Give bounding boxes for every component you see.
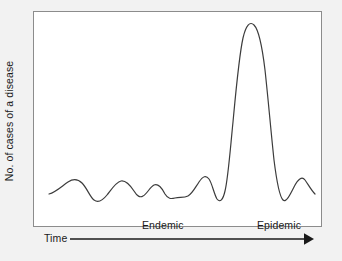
x-axis-label: Time [44,232,67,245]
figure-container: Endemic Epidemic No. of cases of a disea… [0,0,342,261]
time-arrow-icon [68,230,316,248]
plot-area: Endemic Epidemic [33,11,322,227]
y-axis-label: No. of cases of a disease [1,0,17,252]
disease-curve [34,12,323,228]
